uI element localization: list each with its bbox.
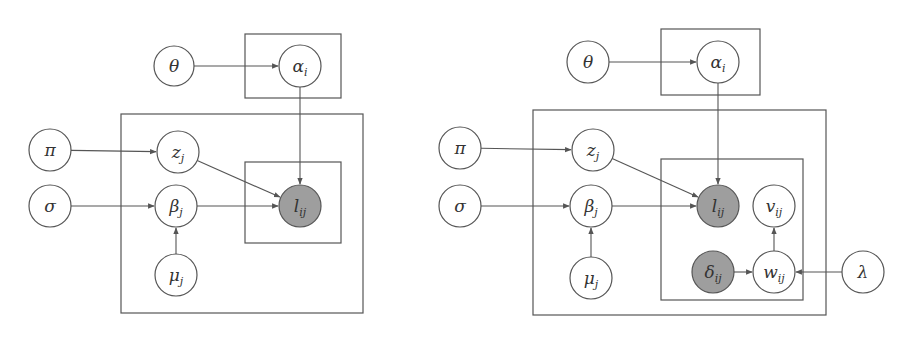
node-mu-latent: μj — [155, 254, 197, 296]
node-label: π — [453, 138, 466, 158]
node-label: σ — [44, 196, 56, 216]
edge-z-to-l — [612, 159, 698, 197]
node-alpha-latent: αi — [279, 45, 321, 87]
node-theta-latent: θ — [154, 46, 194, 86]
node-w-latent: wij — [753, 251, 795, 293]
node-label: σ — [454, 196, 466, 216]
node-label: θ — [169, 56, 179, 76]
node-sigma-latent: σ — [29, 185, 71, 227]
node-z-latent: zj — [572, 129, 614, 171]
node-alpha-latent: αi — [697, 41, 739, 83]
node-z-latent: zj — [157, 131, 199, 173]
node-pi-latent: π — [439, 127, 481, 169]
edge-pi-to-z — [71, 150, 156, 151]
node-label: π — [43, 140, 56, 160]
node-beta-latent: βj — [570, 185, 612, 227]
node-label: λ — [857, 262, 869, 282]
node-pi-latent: π — [29, 129, 71, 171]
node-label: θ — [583, 52, 593, 72]
node-v-latent: vij — [753, 185, 795, 227]
node-lambda-latent: λ — [842, 251, 884, 293]
edge-pi-to-z — [481, 148, 571, 149]
graphical-model-canvas: θαiπzjσβjlijμjθαiπzjσβjlijvijμjδijwijλ — [0, 0, 904, 338]
node-sigma-latent: σ — [439, 185, 481, 227]
node-theta-latent: θ — [567, 41, 609, 83]
node-mu-latent: μj — [570, 257, 612, 299]
node-l-observed: lij — [697, 185, 739, 227]
node-delta-observed: δij — [692, 251, 734, 293]
nodes-layer: θαiπzjσβjlijμjθαiπzjσβjlijvijμjδijwijλ — [29, 41, 884, 299]
node-l-observed: lij — [279, 185, 321, 227]
edge-z-to-l — [197, 160, 280, 197]
node-beta-latent: βj — [155, 185, 197, 227]
